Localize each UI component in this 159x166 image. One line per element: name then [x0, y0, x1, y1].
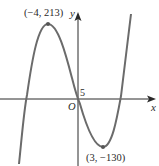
min-point-marker [101, 145, 105, 149]
y-axis-label: y [69, 7, 75, 19]
min-point-label: (3, −130) [86, 152, 126, 164]
max-point-label: (−4, 213) [24, 7, 64, 19]
origin-label: O [68, 101, 76, 112]
y-intercept-label: 5 [80, 87, 85, 98]
max-point-marker [46, 22, 50, 26]
cubic-curve [19, 14, 131, 164]
cubic-graph: (−4, 213) y 5 O x (3, −130) [0, 0, 159, 166]
x-axis-label: x [150, 101, 156, 113]
